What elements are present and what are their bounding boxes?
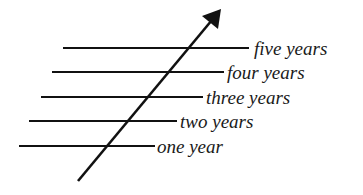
level-three-years: three years (41, 87, 290, 108)
label-five-years: five years (254, 38, 327, 59)
level-four-years: four years (52, 62, 305, 83)
label-one-year: one year (157, 136, 224, 157)
arrow-head-icon (202, 9, 221, 29)
level-one-year: one year (19, 136, 224, 157)
time-levels-diagram: one year two years three years four year… (0, 0, 363, 195)
label-three-years: three years (206, 87, 290, 108)
label-two-years: two years (180, 111, 253, 132)
label-four-years: four years (227, 62, 305, 83)
level-two-years: two years (29, 111, 253, 132)
